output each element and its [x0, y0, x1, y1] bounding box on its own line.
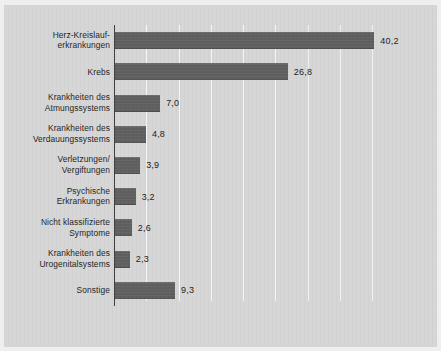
category-label: Sonstige: [4, 285, 110, 296]
category-label: Herz-Kreislauf- erkrankungen: [4, 30, 110, 51]
bar-value-label: 3,2: [142, 192, 155, 202]
bar-chart-panel: Herz-Kreislauf- erkrankungen40,2Krebs26,…: [4, 5, 437, 347]
bar-value-label: 4,8: [152, 129, 165, 139]
bar: [115, 282, 175, 299]
bar-value-label: 7,0: [166, 98, 179, 108]
bar-row: Verletzungen/ Vergiftungen3,9: [4, 150, 437, 181]
bar: [115, 219, 132, 236]
bar-value-label: 3,9: [146, 160, 159, 170]
bar-value-label: 26,8: [294, 67, 312, 77]
category-label: Verletzungen/ Vergiftungen: [4, 155, 110, 176]
bar: [115, 188, 136, 205]
bar-value-label: 9,3: [181, 285, 194, 295]
bar-value-label: 2,3: [136, 254, 149, 264]
category-label: Krankheiten des Urogenitalsystems: [4, 249, 110, 270]
category-label: Psychische Erkrankungen: [4, 186, 110, 207]
bar: [115, 32, 374, 49]
bar-rows-container: Herz-Kreislauf- erkrankungen40,2Krebs26,…: [4, 25, 437, 306]
category-label: Krankheiten des Verdauungssystems: [4, 124, 110, 145]
bar-row: Sonstige9,3: [4, 275, 437, 306]
bar-row: Psychische Erkrankungen3,2: [4, 181, 437, 212]
bar-row: Krankheiten des Atmungssystems7,0: [4, 87, 437, 118]
bar: [115, 251, 130, 268]
bar-row: Herz-Kreislauf- erkrankungen40,2: [4, 25, 437, 56]
category-label: Nicht klassifizierte Symptome: [4, 217, 110, 238]
scanned-page: Herz-Kreislauf- erkrankungen40,2Krebs26,…: [0, 0, 441, 351]
bar-row: Krebs26,8: [4, 56, 437, 87]
bar-row: Krankheiten des Urogenitalsystems2,3: [4, 244, 437, 275]
bar-value-label: 40,2: [380, 36, 398, 46]
bar: [115, 63, 288, 80]
bar: [115, 157, 140, 174]
category-label: Krebs: [4, 67, 110, 78]
bar-value-label: 2,6: [138, 223, 151, 233]
bar-row: Nicht klassifizierte Symptome2,6: [4, 212, 437, 243]
bar: [115, 95, 160, 112]
bar-row: Krankheiten des Verdauungssystems4,8: [4, 119, 437, 150]
bar: [115, 126, 146, 143]
category-label: Krankheiten des Atmungssystems: [4, 92, 110, 113]
